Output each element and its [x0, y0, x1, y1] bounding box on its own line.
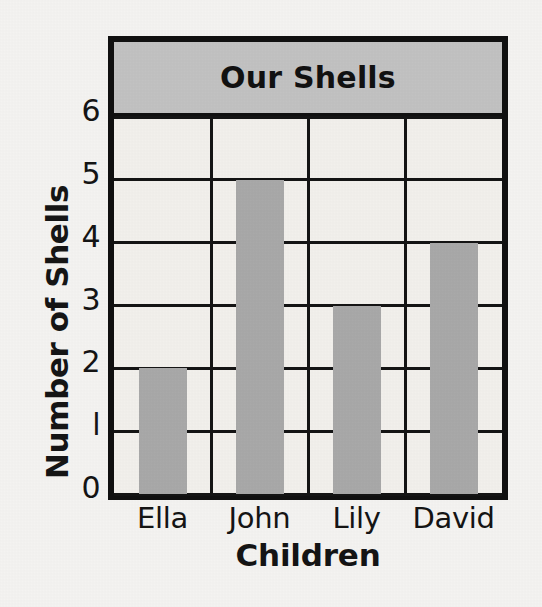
gridline-vertical — [307, 117, 310, 494]
chart-title: Our Shells — [220, 60, 396, 95]
y-axis-tick-label: 6 — [66, 96, 100, 126]
y-axis-tick-label: l — [66, 410, 100, 440]
bar-david — [430, 243, 478, 494]
x-axis-tick-label: David — [405, 502, 502, 534]
x-axis-tick-label: Ella — [114, 502, 211, 534]
x-axis-title: Children — [108, 537, 508, 573]
bar-john — [236, 180, 284, 494]
y-axis-tick-label: 4 — [66, 222, 100, 252]
bar-ella — [139, 368, 187, 494]
chart-title-banner: Our Shells — [114, 42, 502, 117]
gridline-vertical — [404, 117, 407, 494]
x-axis-tick-label: John — [211, 502, 308, 534]
x-axis-tick-labels: EllaJohnLilyDavid — [108, 502, 508, 538]
y-axis-tick-label: 5 — [66, 159, 100, 189]
gridline-vertical — [210, 117, 213, 494]
bar-chart-figure: Number of Shells 0l23456 Our Shells Ella… — [0, 0, 542, 607]
plot-area — [114, 117, 502, 494]
y-axis-tick-labels: 0l23456 — [66, 36, 100, 500]
y-axis-tick-label: 3 — [66, 285, 100, 315]
plot-frame: Our Shells — [108, 36, 508, 500]
y-axis-tick-label: 2 — [66, 347, 100, 377]
y-axis-tick-label: 0 — [66, 473, 100, 503]
x-axis-tick-label: Lily — [308, 502, 405, 534]
bar-lily — [333, 306, 381, 495]
